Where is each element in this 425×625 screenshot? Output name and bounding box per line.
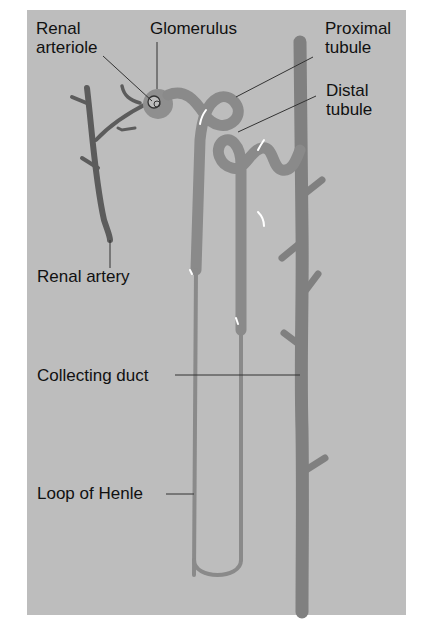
label-renal-arteriole: Renal arteriole: [36, 19, 97, 57]
label-proximal-tubule: Proximal tubule: [325, 19, 391, 57]
label-distal-tubule: Distal tubule: [326, 81, 372, 119]
label-collecting-duct: Collecting duct: [37, 366, 149, 385]
label-glomerulus: Glomerulus: [150, 19, 237, 38]
renal-artery-vessel: [72, 86, 148, 240]
label-renal-artery: Renal artery: [37, 267, 130, 286]
nephron-tubule: [168, 93, 300, 575]
collecting-duct-vessel: [282, 42, 325, 612]
label-loop-of-henle: Loop of Henle: [37, 484, 143, 503]
